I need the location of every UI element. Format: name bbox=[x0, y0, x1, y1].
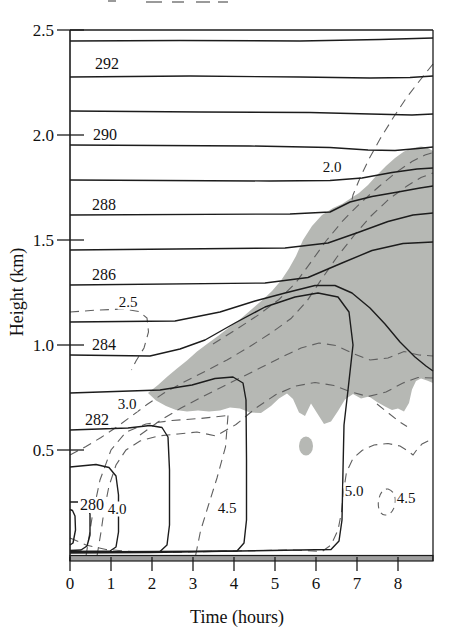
q-label-2-5: 2.5 bbox=[118, 295, 139, 310]
y-tick-label-2-5: 2.5 bbox=[33, 22, 54, 39]
theta-label-280: 280 bbox=[78, 497, 106, 513]
x-axis-band bbox=[70, 556, 433, 562]
q-label-5-0: 5.0 bbox=[344, 484, 365, 499]
theta-contour-282 bbox=[70, 426, 170, 553]
contour-plot bbox=[0, 0, 452, 642]
theta-label-284: 284 bbox=[90, 337, 118, 353]
q-contour-4-5-loop bbox=[378, 489, 395, 515]
q-label-4-5-right: 4.5 bbox=[396, 491, 417, 506]
x-tick-label-5: 5 bbox=[271, 575, 280, 592]
y-tick-label-1-5: 1.5 bbox=[33, 232, 54, 249]
x-tick-label-1: 1 bbox=[107, 575, 116, 592]
y-tick-label-1-0: 1.0 bbox=[33, 337, 54, 354]
y-axis-title: Height (km) bbox=[8, 248, 26, 336]
theta-label-290: 290 bbox=[91, 127, 119, 143]
x-tick-label-6: 6 bbox=[312, 575, 321, 592]
q-label-3-0: 3.0 bbox=[117, 397, 138, 412]
x-tick-label-3: 3 bbox=[189, 575, 198, 592]
x-tick-label-0: 0 bbox=[66, 575, 75, 592]
theta-contour-290 bbox=[70, 145, 433, 151]
x-axis-title: Time (hours) bbox=[190, 608, 284, 626]
theta-label-286: 286 bbox=[90, 267, 118, 283]
theta-label-292: 292 bbox=[93, 56, 121, 72]
x-tick-label-8: 8 bbox=[394, 575, 403, 592]
theta-contour-291 bbox=[70, 111, 433, 115]
q-label-4-0: 4.0 bbox=[107, 502, 128, 517]
q-label-4-5-mid: 4.5 bbox=[217, 501, 238, 516]
x-tick-label-7: 7 bbox=[353, 575, 362, 592]
cloud-blob bbox=[299, 437, 313, 456]
figure-boundary-layer-contour-plot: 2.5 2.0 1.5 1.0 0.5 0 1 2 3 4 5 6 7 8 He… bbox=[0, 0, 452, 642]
theta-contour-293 bbox=[70, 38, 433, 41]
x-tick-label-2: 2 bbox=[148, 575, 157, 592]
q-contour-4-5-descent bbox=[196, 416, 229, 557]
q-label-2-0: 2.0 bbox=[322, 160, 343, 175]
theta-label-282: 282 bbox=[83, 412, 111, 428]
theta-contour-292 bbox=[70, 76, 433, 78]
y-tick-label-0-5: 0.5 bbox=[33, 442, 54, 459]
theta-label-288: 288 bbox=[90, 197, 118, 213]
x-tick-label-4: 4 bbox=[230, 575, 239, 592]
q-contour-4-5-dome bbox=[86, 416, 228, 557]
y-tick-label-2-0: 2.0 bbox=[33, 127, 54, 144]
q-contour-5-0 bbox=[70, 440, 433, 553]
